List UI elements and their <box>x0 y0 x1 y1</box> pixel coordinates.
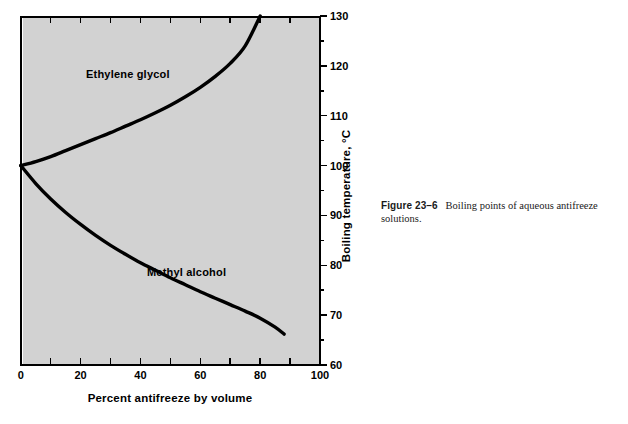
y-axis-minor-tick <box>320 90 324 92</box>
x-axis-tick-top <box>200 16 202 23</box>
y-axis-minor-tick <box>320 140 324 142</box>
x-axis-tick <box>200 358 202 365</box>
figure-caption: Figure 23–6 Boiling points of aqueous an… <box>381 199 613 225</box>
y-axis-line-left <box>20 16 22 366</box>
x-axis-tick-top <box>319 16 321 23</box>
y-axis-tick <box>320 364 327 366</box>
x-axis-minor-tick-top <box>289 16 291 23</box>
y-axis-tick <box>320 65 327 67</box>
x-axis-tick <box>140 358 142 365</box>
y-axis-tick <box>320 314 327 316</box>
x-axis-minor-tick <box>289 358 291 365</box>
x-axis-title: Percent antifreeze by volume <box>20 392 320 404</box>
x-axis-minor-tick-top <box>229 16 231 23</box>
x-axis-minor-tick <box>110 358 112 365</box>
x-axis-tick-label: 100 <box>311 369 329 381</box>
x-axis-minor-tick-top <box>170 16 172 23</box>
y-axis-tick <box>320 115 327 117</box>
y-axis-tick <box>320 215 327 217</box>
y-axis-tick-label: 60 <box>330 359 342 371</box>
y-axis-tick <box>320 15 327 17</box>
plot-area <box>20 16 320 365</box>
x-axis-minor-tick-top <box>110 16 112 23</box>
x-axis-tick-label: 40 <box>134 369 146 381</box>
x-axis-tick-top <box>140 16 142 23</box>
x-axis-minor-tick <box>170 358 172 365</box>
figure-caption-number: Figure 23–6 <box>381 200 438 211</box>
figure-container: 02040608010060708090100110120130 Percent… <box>0 0 628 424</box>
x-axis-minor-tick <box>50 358 52 365</box>
series-label-ethylene-glycol: Ethylene glycol <box>86 68 170 80</box>
x-axis-tick <box>80 358 82 365</box>
x-axis-minor-tick <box>229 358 231 365</box>
y-axis-tick-label: 110 <box>330 110 348 122</box>
y-axis-title: Boiling temperature, °C <box>340 130 352 263</box>
series-label-methyl-alcohol: Methyl alcohol <box>147 266 226 278</box>
x-axis-tick-label: 80 <box>254 369 266 381</box>
y-axis-minor-tick <box>320 339 324 341</box>
y-axis-tick <box>320 265 327 267</box>
x-axis-tick <box>20 358 22 365</box>
x-axis-tick-label: 0 <box>18 369 24 381</box>
y-axis-tick-label: 70 <box>330 309 342 321</box>
x-axis-tick-top <box>80 16 82 23</box>
y-axis-minor-tick <box>320 240 324 242</box>
x-axis-tick-top <box>259 16 261 23</box>
x-axis-tick-top <box>20 16 22 23</box>
y-axis-tick-label: 130 <box>330 10 348 22</box>
x-axis-tick <box>259 358 261 365</box>
y-axis-minor-tick <box>320 190 324 192</box>
y-axis-minor-tick <box>320 40 324 42</box>
x-axis-minor-tick-top <box>50 16 52 23</box>
x-axis-tick-label: 60 <box>194 369 206 381</box>
y-axis-minor-tick <box>320 289 324 291</box>
y-axis-tick <box>320 165 327 167</box>
x-axis-tick-label: 20 <box>75 369 87 381</box>
y-axis-tick-label: 120 <box>330 60 348 72</box>
